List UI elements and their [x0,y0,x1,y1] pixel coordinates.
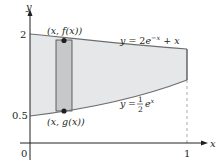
x-axis-label: x [210,138,216,149]
svg-text:1: 1 [138,95,143,104]
representative-strip [56,40,72,111]
point-f-label: (x, f(x)) [47,25,82,36]
shaded-region [30,34,187,116]
origin-label: 0 [21,148,27,159]
svg-text:2: 2 [138,105,143,114]
x-axis-arrow-icon [201,141,208,146]
point-g [61,108,66,113]
area-between-curves-figure: y x 0 1 2 0.5 (x, f(x)) (x, g(x)) y = 2e… [0,0,216,166]
svg-text:y: y [119,98,126,109]
point-g-label: (x, g(x)) [47,116,85,127]
point-f [61,38,66,43]
svg-text:=: = [128,98,136,109]
y-tick-0.5: 0.5 [12,110,28,121]
y-tick-2: 2 [20,29,26,40]
upper-curve-label: y = 2e−x + x [119,34,180,46]
svg-text:x: x [151,97,155,105]
y-axis-label: y [25,1,32,12]
lower-curve-label: y = 1 2 e x [119,95,155,114]
x-tick-1: 1 [184,148,190,159]
